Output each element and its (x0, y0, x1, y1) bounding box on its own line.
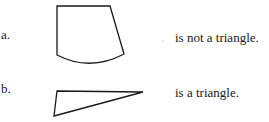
figures (0, 0, 269, 122)
triangle-figure-icon (54, 91, 143, 116)
stray-dot-mark (162, 40, 163, 41)
non-triangle-figure-icon (57, 6, 124, 63)
